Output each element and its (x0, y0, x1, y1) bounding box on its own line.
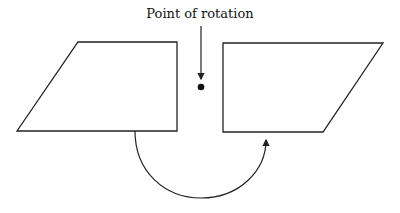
rotated-shape (223, 43, 383, 132)
rotation-point-dot (198, 84, 205, 91)
diagram-graphics (0, 0, 400, 213)
rotation-diagram: Point of rotation (0, 0, 400, 213)
rotation-arc-arrow (135, 131, 266, 198)
original-shape (17, 42, 177, 131)
